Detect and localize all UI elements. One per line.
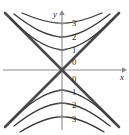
hyperbola-contour-figure: 12. y x x — [0, 0, 129, 135]
level-label-lower-2: 2 — [72, 100, 76, 110]
level-label-upper-0: 0 — [72, 57, 76, 67]
contour-plot-canvas: y x 3 2 1 0 0 1 2 3 — [0, 0, 129, 135]
level-label-lower-3: 3 — [72, 114, 76, 124]
level-label-upper-3: 3 — [72, 18, 76, 28]
level-label-upper-1: 1 — [72, 45, 76, 55]
x-axis-label: x — [119, 72, 124, 82]
level-label-upper-2: 2 — [72, 32, 76, 42]
y-axis-label: y — [52, 9, 57, 19]
level-label-lower-1: 1 — [72, 87, 76, 97]
level-label-lower-0: 0 — [72, 74, 76, 84]
